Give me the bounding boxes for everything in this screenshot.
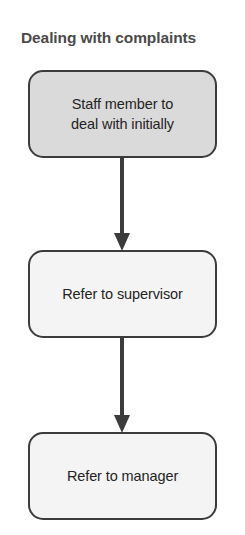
flowchart-canvas: Dealing with complaints Staff member to … <box>0 0 245 535</box>
node-label: Refer to manager <box>59 466 186 486</box>
flowchart-node-refer-supervisor[interactable]: Refer to supervisor <box>28 250 217 338</box>
node-label: Refer to supervisor <box>54 284 191 304</box>
arrow-staff-to-supervisor <box>106 157 138 251</box>
flowchart-node-refer-manager[interactable]: Refer to manager <box>28 432 217 520</box>
down-arrow-icon <box>106 337 138 433</box>
arrow-supervisor-to-manager <box>106 337 138 433</box>
page-title: Dealing with complaints <box>21 28 231 47</box>
flowchart-node-staff-member[interactable]: Staff member to deal with initially <box>28 70 217 158</box>
node-label: Staff member to deal with initially <box>63 94 182 134</box>
down-arrow-icon <box>106 157 138 251</box>
